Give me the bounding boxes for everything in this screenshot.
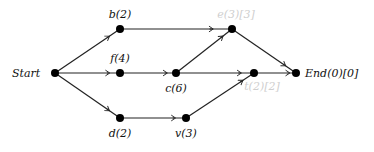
node-start [51,69,59,77]
arrowhead-icon [240,81,241,82]
node-label-b: b(2) [109,8,132,21]
node-d [116,114,124,122]
node-label-f: f(4) [109,52,130,65]
node-v [182,114,190,122]
edge-c-e [176,29,232,73]
edge-e-end [232,29,296,73]
node-label-e: e(3)[3] [217,8,255,21]
edge-start-d [55,73,120,118]
arrowhead-icon [221,37,222,38]
node-f [116,69,124,77]
node-label-t: t(2)[2] [244,80,280,93]
node-c [172,69,180,77]
node-b [116,25,124,33]
node-label-end: End(0)[0] [304,67,359,80]
node-e [228,25,236,33]
dependency-graph: Startb(2)f(4)c(6)e(3)[3]t(2)[2]End(0)[0]… [0,0,374,152]
arrowhead-icon [107,109,108,110]
arrowhead-icon [283,64,284,65]
edge-start-b [55,29,120,73]
node-label-c: c(6) [165,82,187,95]
node-t [250,69,258,77]
node-label-v: v(3) [175,127,197,140]
arrowhead-icon [107,37,108,38]
node-label-start: Start [12,67,41,80]
node-end [292,69,300,77]
node-label-d: d(2) [109,127,132,140]
